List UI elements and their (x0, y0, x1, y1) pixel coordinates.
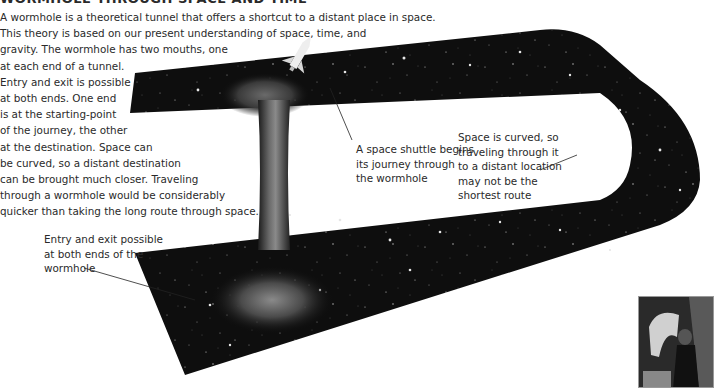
wormhole-throat (258, 100, 290, 250)
space-sheet (130, 29, 700, 375)
film-still-photo (638, 296, 714, 388)
photo-image (639, 297, 714, 388)
bottom-mouth (210, 266, 334, 334)
wormhole-illustration (0, 0, 714, 388)
curved-space-label: Space is curved, so traveling through it… (458, 130, 562, 203)
entry-exit-label: Entry and exit possible at both ends of … (44, 232, 163, 276)
shuttle-label: A space shuttle begins its journey throu… (356, 142, 474, 186)
